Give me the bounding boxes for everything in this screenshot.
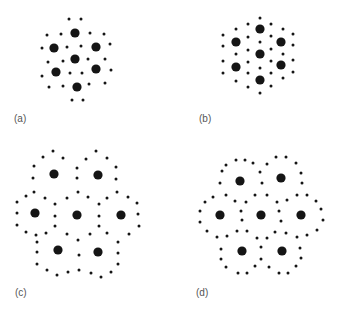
small-dot: [278, 210, 281, 213]
small-dot: [33, 191, 36, 194]
small-dot: [106, 157, 109, 160]
small-dot: [247, 61, 250, 64]
small-dot: [237, 272, 240, 275]
small-dot: [259, 41, 262, 44]
large-dot: [276, 37, 285, 46]
small-dot: [98, 225, 101, 228]
small-dot: [222, 45, 225, 48]
small-dot: [222, 72, 225, 75]
small-dot: [256, 237, 259, 240]
small-dot: [300, 172, 303, 175]
small-dot: [100, 276, 103, 279]
small-dot: [235, 28, 238, 31]
small-dot: [245, 201, 248, 204]
small-dot: [109, 43, 112, 46]
large-dot: [255, 24, 264, 33]
small-dot: [80, 45, 83, 48]
large-dot: [72, 82, 81, 91]
small-dot: [80, 18, 83, 21]
small-dot: [260, 258, 263, 261]
small-dot: [62, 157, 65, 160]
panel-label-c: (c): [15, 287, 27, 298]
large-dot: [255, 75, 264, 84]
small-dot: [36, 251, 39, 254]
small-dot: [98, 203, 101, 206]
small-dot: [274, 231, 277, 234]
small-dot: [106, 197, 109, 200]
large-dot: [91, 64, 100, 73]
small-dot: [254, 194, 257, 197]
small-dot: [285, 232, 288, 235]
small-dot: [47, 61, 50, 64]
small-dot: [306, 234, 309, 237]
small-dot: [220, 258, 223, 261]
large-dot: [49, 169, 58, 178]
small-dot: [247, 86, 250, 89]
small-dot: [292, 71, 295, 74]
small-dot: [261, 182, 264, 185]
large-dot: [70, 28, 79, 37]
small-dot: [137, 213, 140, 216]
panel-label-d: (d): [196, 287, 208, 298]
small-dot: [138, 225, 141, 228]
small-dot: [266, 194, 269, 197]
small-dot: [103, 33, 106, 36]
small-dot: [300, 257, 303, 260]
small-dot: [282, 77, 285, 80]
small-dot: [222, 34, 225, 37]
small-dot: [236, 230, 239, 233]
small-dot: [282, 28, 285, 31]
small-dot: [270, 48, 273, 51]
small-dot: [199, 221, 202, 224]
small-dot: [270, 60, 273, 63]
small-dot: [226, 235, 229, 238]
panel-b-dot-pattern: [222, 17, 295, 95]
panel-label-a: (a): [14, 113, 26, 124]
small-dot: [199, 210, 202, 213]
small-dot: [285, 156, 288, 159]
small-dot: [320, 208, 323, 211]
small-dot: [41, 75, 44, 78]
small-dot: [81, 72, 84, 75]
small-dot: [128, 233, 131, 236]
small-dot: [78, 254, 81, 257]
small-dot: [33, 165, 36, 168]
small-dot: [247, 72, 250, 75]
small-dot: [48, 86, 51, 89]
small-dot: [222, 60, 225, 63]
small-dot: [87, 196, 90, 199]
small-dot: [225, 164, 228, 167]
small-dot: [266, 163, 269, 166]
small-dot: [85, 158, 88, 161]
small-dot: [52, 150, 55, 153]
small-dot: [286, 199, 289, 202]
small-dot: [266, 237, 269, 240]
small-dot: [246, 230, 249, 233]
small-dot: [235, 159, 238, 162]
small-dot: [32, 177, 35, 180]
small-dot: [76, 167, 79, 170]
small-dot: [292, 59, 295, 62]
small-dot: [316, 229, 319, 232]
small-dot: [295, 265, 298, 268]
small-dot: [45, 232, 48, 235]
small-dot: [62, 60, 65, 63]
large-dot: [231, 37, 240, 46]
small-dot: [110, 69, 113, 72]
small-dot: [69, 72, 72, 75]
small-dot: [259, 171, 262, 174]
small-dot: [246, 272, 249, 275]
large-dot: [49, 43, 58, 52]
small-dot: [104, 82, 107, 85]
small-dot: [46, 34, 49, 37]
large-dot: [51, 67, 60, 76]
small-dot: [260, 246, 263, 249]
large-dot: [296, 210, 305, 219]
small-dot: [117, 263, 120, 266]
small-dot: [106, 232, 109, 235]
small-dot: [280, 220, 283, 223]
small-dot: [259, 17, 262, 20]
small-dot: [54, 215, 57, 218]
small-dot: [127, 196, 130, 199]
small-dot: [225, 194, 228, 197]
